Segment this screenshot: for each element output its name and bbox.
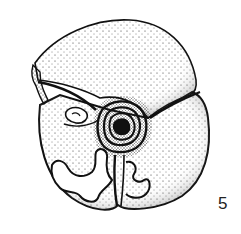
foraminifera-illustration (0, 0, 241, 234)
specimen-drawing (0, 0, 241, 234)
figure-number-label: 5 (218, 194, 227, 214)
